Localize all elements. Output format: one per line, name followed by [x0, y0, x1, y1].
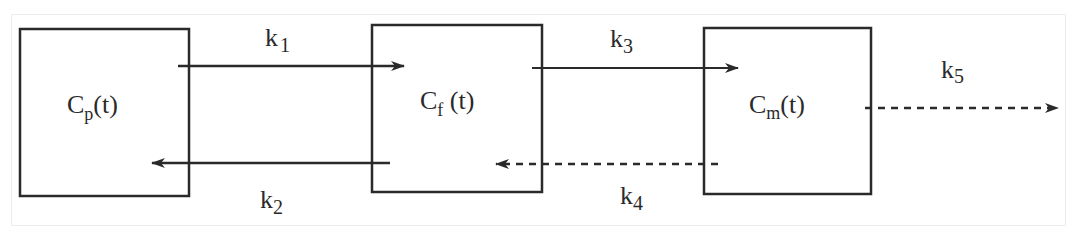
compartment-label-metabolite: Cm(t): [749, 90, 805, 123]
rate-label-k5: k5: [941, 55, 964, 87]
rate-label-k2: k2: [260, 185, 283, 218]
rate-label-k1: k1: [265, 23, 290, 56]
compartment-label-plasma: Cp(t): [67, 90, 118, 124]
rate-label-k3: k3: [610, 24, 633, 57]
compartment-diagram: Cp(t) Cf (t) Cm(t) k1 k2 k3 k4 k5: [0, 0, 1078, 237]
rate-label-k4: k4: [620, 181, 643, 214]
compartment-label-free: Cf (t): [420, 86, 474, 120]
